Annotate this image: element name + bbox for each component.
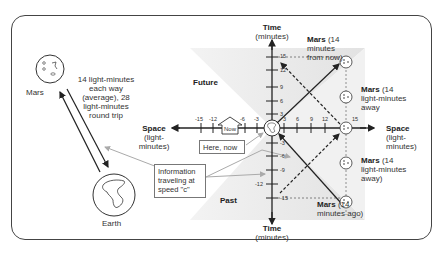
tick-x: 15	[352, 116, 358, 122]
mars-label: Mars	[26, 88, 44, 97]
earth-label: Earth	[102, 219, 121, 228]
tick-y: -9	[280, 167, 285, 173]
mars-away-label-1: Mars (14 light-minutes away	[361, 85, 406, 112]
mars-future-label: Mars (14 minutes from now)	[307, 35, 343, 62]
tick-x: -3	[254, 116, 259, 122]
space-axis-left-label: Space (light- minutes)	[136, 124, 172, 151]
tick-x: -15	[195, 116, 203, 122]
mars-away-label-2: Mars (14 light-minutes away)	[361, 156, 406, 183]
tick-y: 6	[280, 98, 283, 104]
tick-x: -6	[240, 116, 245, 122]
now-marker-label: Now	[224, 126, 236, 132]
tick-y: 3	[280, 111, 283, 117]
tick-y: 9	[280, 84, 283, 90]
tick-y: -3	[280, 140, 285, 146]
space-axis-right-label: Space (light- minutes)	[386, 124, 417, 151]
here-now-box: Here, now	[199, 140, 245, 154]
future-region-label: Future	[193, 78, 218, 87]
tick-x: 3	[283, 116, 286, 122]
tick-x: -12	[209, 116, 217, 122]
tick-y: 15	[280, 53, 286, 59]
earth-icon	[93, 174, 135, 216]
tick-x: 9	[310, 116, 313, 122]
time-axis-top-label: Time (minutes)	[250, 23, 294, 41]
time-axis-bottom-label: Time (minutes)	[250, 224, 294, 242]
mars-past-label: Mars (14 minutes ago)	[317, 200, 363, 218]
distance-note: 14 light-minutes each way (average), 28 …	[70, 75, 142, 120]
spacetime-diagram	[0, 0, 440, 259]
tick-y: 12	[280, 67, 286, 73]
past-region-label: Past	[220, 196, 237, 205]
tick-x: 6	[296, 116, 299, 122]
tick-y: -6	[280, 153, 285, 159]
mars-icon	[36, 55, 64, 83]
tick-x: 12	[322, 116, 328, 122]
tick-y: -12	[255, 181, 263, 187]
tick-y: -15	[280, 195, 288, 201]
info-box: Information traveling at speed "c"	[154, 164, 206, 198]
